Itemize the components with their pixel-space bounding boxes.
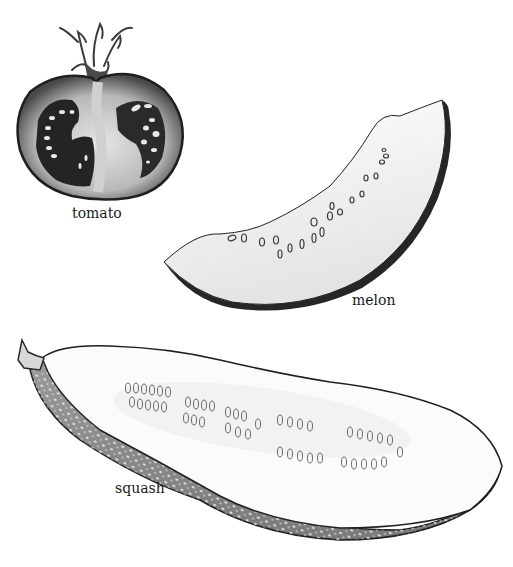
melon-label: melon — [352, 293, 395, 307]
produce-illustration — [0, 0, 513, 567]
tomato-drawing — [18, 24, 183, 200]
tomato-stem-icon — [60, 24, 132, 75]
squash-drawing — [18, 340, 502, 540]
squash-stem-icon — [18, 340, 44, 370]
squash-label: squash — [115, 481, 165, 495]
tomato-label: tomato — [72, 206, 122, 220]
melon-drawing — [164, 100, 451, 311]
